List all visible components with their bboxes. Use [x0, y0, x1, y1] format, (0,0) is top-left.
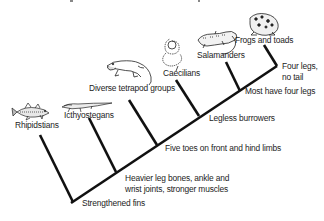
fish-icon	[12, 103, 49, 120]
taxon-label-caecilians: Caecilians	[163, 68, 200, 78]
trait-label-most-have-four-legs: Most have four legs	[245, 86, 315, 96]
branch-salamanders	[226, 62, 240, 91]
cropped-text-fragments	[70, 0, 200, 2]
branch-diverse	[129, 100, 157, 145]
lizard-like-tetrapod-icon	[107, 61, 151, 85]
taxon-label-salamanders: Salamanders	[197, 50, 245, 60]
trait-label-strengthened-fins: Strengthened fins	[82, 198, 145, 208]
taxon-label-frogs: Frogs and toads	[235, 35, 293, 45]
taxon-label-diverse: Diverse tetrapod groups	[89, 83, 175, 93]
coiled-caecilian-icon	[163, 39, 182, 71]
trait-label-five-toes: Five toes on front and hind limbs	[165, 143, 281, 153]
taxon-label-rhipidstians: Rhipidstians	[15, 120, 59, 130]
cladogram: Rhipidstians Icthyostegans Diverse tetra…	[0, 0, 324, 221]
taxon-label-icthyostegans: Icthyostegans	[64, 110, 114, 120]
frog-icon	[250, 14, 278, 36]
branch-icthyostegans	[89, 118, 116, 172]
trait-label-heavier-leg-bones: Heavier leg bones, ankle and wrist joint…	[125, 173, 229, 195]
branch-frogs	[264, 45, 277, 66]
branch-rhipidstians	[40, 135, 73, 202]
trait-label-legless-burrowers: Legless burrowers	[209, 113, 275, 123]
trait-label-four-legs-no-tail: Four legs, no tail	[282, 61, 318, 83]
branch-caecilians	[176, 80, 199, 116]
